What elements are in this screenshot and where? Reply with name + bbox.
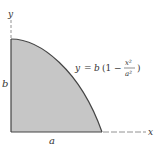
parabolic-area-diagram: y x b a y = b (1 − x² a² ) bbox=[0, 0, 165, 147]
y-axis-label: y bbox=[7, 9, 14, 19]
height-label-b: b bbox=[2, 78, 8, 89]
shaded-region bbox=[11, 39, 102, 132]
width-label-a: a bbox=[49, 135, 55, 146]
equation-open-paren: (1 − bbox=[102, 63, 122, 73]
equation-lhs: y bbox=[74, 63, 81, 73]
equation-coef: b bbox=[94, 63, 100, 73]
curve-equation: y = b (1 − x² a² ) bbox=[74, 59, 141, 78]
equation-fraction-denominator: a² bbox=[125, 70, 132, 78]
x-axis-label: x bbox=[148, 127, 153, 137]
equation-fraction-numerator: x² bbox=[125, 59, 132, 67]
equation-close-paren: ) bbox=[137, 63, 141, 73]
equation-equals: = bbox=[84, 63, 92, 73]
